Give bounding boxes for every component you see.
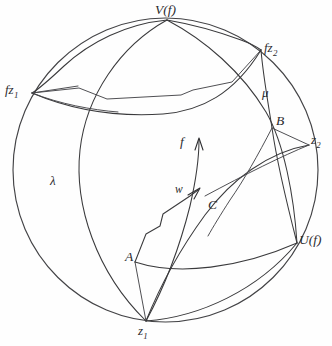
geodesic-lambda-curve [79, 20, 167, 321]
figure-root: V(f) fz2 fz1 μ B z2 f λ w C U(f) A z1 [0, 0, 332, 346]
fan-stroke-fz1-lower [32, 93, 118, 112]
label-z2-subscript: 2 [316, 140, 321, 150]
label-u-of-f: U(f) [299, 233, 322, 247]
label-fz2-base: fz [264, 40, 273, 55]
label-path-f: f [180, 135, 184, 149]
polyline-fz1-to-fz2 [32, 50, 261, 99]
label-lambda: λ [50, 174, 56, 187]
label-z2: z2 [311, 133, 321, 149]
path-w-polyline [135, 190, 198, 262]
path-f-polyline [146, 140, 199, 321]
arc-a-to-uf [135, 243, 297, 269]
label-fz2-subscript: 2 [273, 48, 278, 58]
segment-a-to-z1 [135, 262, 146, 321]
label-point-c: C [208, 198, 217, 212]
segment-c-to-z2 [205, 145, 309, 196]
label-v-of-f: V(f) [155, 3, 176, 17]
label-path-w: w [175, 184, 183, 196]
label-point-a: A [125, 250, 133, 264]
arc-vf-to-fz2 [167, 20, 261, 50]
label-fz1-base: fz [5, 82, 14, 97]
geodesic-mu-curve [261, 50, 297, 243]
label-z1: z1 [138, 324, 148, 340]
label-fz2: fz2 [264, 41, 277, 57]
label-z1-subscript: 1 [143, 331, 148, 341]
label-mu: μ [262, 86, 269, 99]
boundary-circle [13, 18, 318, 322]
label-fz1: fz1 [5, 83, 18, 99]
fan-stroke-fz1-upper [32, 86, 78, 93]
arc-fz1-to-fz2 [32, 50, 261, 115]
label-fz1-subscript: 1 [14, 90, 19, 100]
label-point-b: B [276, 114, 284, 128]
arc-z1-to-z2 [146, 145, 309, 321]
arc-z1-to-uf [146, 243, 297, 321]
arc-vf-to-uf [167, 20, 297, 243]
arc-vf-to-fz1 [32, 20, 167, 93]
segment-b-to-uf [208, 128, 272, 236]
